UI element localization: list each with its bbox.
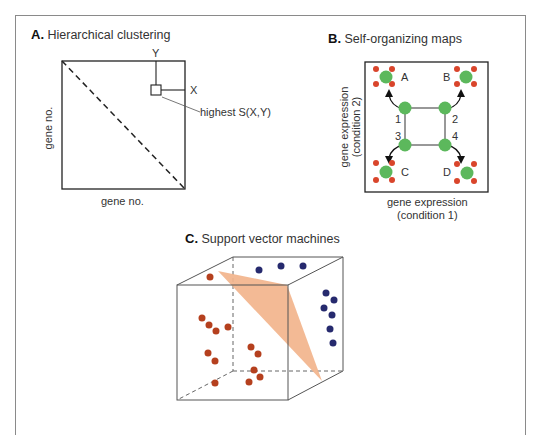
som-node-2 <box>439 102 452 115</box>
cluster-c <box>373 160 395 183</box>
marker-x-label: X <box>190 84 197 96</box>
panel-b-y-axis-line1: gene expression <box>338 82 350 172</box>
diagonal-dashed-line <box>62 61 185 189</box>
node-label-3: 3 <box>395 130 401 142</box>
panel-b-x-axis-line2: (condition 1) <box>387 209 468 222</box>
cluster-label-b: B <box>443 71 450 83</box>
cluster-d <box>454 161 477 184</box>
panel-c-svm <box>177 257 343 400</box>
marker-y-label: Y <box>152 47 159 59</box>
node-label-4: 4 <box>452 130 458 142</box>
hyperplane <box>218 271 322 381</box>
callout-line <box>162 97 200 112</box>
cluster-label-c: C <box>401 166 409 178</box>
panel-a-matrix <box>62 61 200 189</box>
callout-label: highest S(X,Y) <box>200 106 271 118</box>
panel-b-y-axis-label: gene expression (condition 2) <box>338 82 362 172</box>
panel-b-y-axis-line2: (condition 2) <box>350 82 362 172</box>
panel-b-x-axis-line1: gene expression <box>387 196 468 209</box>
panel-a-y-axis-label: gene no. <box>42 103 54 153</box>
cluster-label-d: D <box>443 166 451 178</box>
panel-b-x-axis-label: gene expression (condition 1) <box>387 196 468 222</box>
node-label-1: 1 <box>395 113 401 125</box>
cluster-b <box>454 66 477 87</box>
som-node-4 <box>439 139 452 152</box>
panel-b-som <box>365 62 488 192</box>
highest-similarity-cell <box>151 85 161 95</box>
panel-a-x-axis-label: gene no. <box>101 195 144 207</box>
cluster-a <box>373 66 395 87</box>
cluster-label-a: A <box>401 71 408 83</box>
node-label-2: 2 <box>452 113 458 125</box>
